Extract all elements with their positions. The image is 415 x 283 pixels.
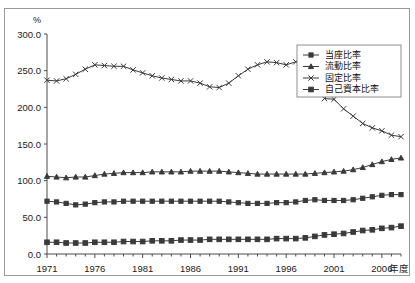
- data-point: [331, 169, 336, 174]
- data-point: [44, 174, 49, 179]
- data-point: [332, 232, 337, 237]
- data-point: [227, 200, 231, 204]
- data-point: [255, 237, 260, 242]
- data-point: [389, 193, 393, 197]
- data-point: [54, 240, 59, 245]
- data-point: [341, 168, 346, 173]
- data-point: [121, 170, 126, 175]
- data-point: [398, 155, 403, 160]
- y-axis-tick-label: 250.0: [17, 65, 41, 76]
- data-point: [303, 171, 308, 176]
- x-axis-tick-label: 2001: [323, 263, 344, 274]
- data-point: [360, 121, 365, 126]
- data-point: [217, 237, 222, 242]
- page-top-cutoff-strip: ──── ─ ── ───── ──────── ── ──── ───── ─…: [0, 0, 415, 7]
- data-point: [264, 171, 269, 176]
- data-point: [73, 72, 78, 77]
- data-point: [313, 198, 317, 202]
- data-point: [322, 170, 327, 175]
- data-point: [188, 238, 193, 243]
- figure-frame: %0.050.0100.0150.0200.0250.0300.01971197…: [4, 8, 410, 276]
- data-point: [83, 241, 88, 246]
- data-point: [275, 201, 279, 205]
- series-line: [47, 158, 401, 178]
- y-axis-tick-label: 0.0: [28, 249, 41, 260]
- data-point: [140, 70, 145, 75]
- data-point: [226, 169, 231, 174]
- legend-label: 自己資本比率: [325, 83, 379, 94]
- data-point: [73, 174, 78, 179]
- data-point: [246, 237, 251, 242]
- data-point: [45, 199, 49, 203]
- data-point: [360, 228, 365, 233]
- data-point: [293, 171, 298, 176]
- data-point: [178, 169, 183, 174]
- series-2: [44, 155, 403, 180]
- data-point: [141, 199, 145, 203]
- data-point: [380, 193, 384, 197]
- data-point: [54, 174, 59, 179]
- data-point: [131, 199, 135, 203]
- data-point: [284, 171, 289, 176]
- data-point: [399, 224, 404, 229]
- data-point: [197, 168, 202, 173]
- data-point: [389, 157, 394, 162]
- legend-label: 当座比率: [325, 49, 361, 60]
- y-axis-tick-label: 100.0: [17, 175, 41, 186]
- x-axis-tick-label: 1996: [276, 263, 297, 274]
- chart-legend: 当座比率流動比率固定比率自己資本比率: [297, 45, 401, 97]
- data-point: [112, 240, 117, 245]
- data-point: [102, 200, 106, 204]
- data-point: [150, 199, 154, 203]
- y-axis-tick-label: 50.0: [23, 212, 42, 223]
- data-point: [236, 73, 241, 78]
- data-point: [274, 236, 279, 241]
- data-point: [150, 169, 155, 174]
- data-point: [322, 198, 326, 202]
- x-axis-tick-label: 1991: [228, 263, 249, 274]
- data-point: [313, 234, 318, 239]
- data-point: [207, 168, 212, 173]
- data-point: [208, 199, 212, 203]
- data-point: [54, 200, 58, 204]
- data-point: [274, 171, 279, 176]
- data-point: [169, 169, 174, 174]
- data-point: [93, 201, 97, 205]
- data-point: [74, 203, 78, 207]
- data-point: [370, 228, 375, 233]
- data-point: [102, 240, 107, 245]
- data-point: [92, 173, 97, 178]
- data-point: [341, 106, 346, 111]
- data-point: [64, 175, 69, 180]
- data-point: [73, 241, 78, 246]
- data-point: [236, 170, 241, 175]
- y-axis-tick-label: 150.0: [17, 139, 41, 150]
- data-point: [160, 239, 165, 244]
- data-point: [111, 171, 116, 176]
- legend-label: 流動比率: [325, 60, 361, 71]
- data-point: [188, 168, 193, 173]
- data-point: [236, 201, 240, 205]
- data-point: [226, 80, 231, 85]
- data-point: [217, 168, 222, 173]
- data-point: [130, 67, 135, 72]
- data-point: [169, 199, 173, 203]
- data-point: [131, 170, 136, 175]
- data-point: [198, 238, 203, 243]
- data-point: [83, 174, 88, 179]
- series-3: [45, 193, 403, 207]
- data-point: [179, 199, 183, 203]
- data-point: [207, 237, 212, 242]
- legend-marker-filled-square-icon: [309, 87, 314, 92]
- data-point: [399, 193, 403, 197]
- x-axis-tick-label: 1971: [36, 263, 57, 274]
- data-point: [83, 67, 88, 72]
- x-axis-tick-label: 1986: [180, 263, 201, 274]
- data-point: [341, 198, 345, 202]
- data-point: [284, 236, 289, 241]
- data-point: [265, 201, 269, 205]
- data-point: [255, 171, 260, 176]
- data-point: [322, 233, 327, 238]
- data-point: [246, 201, 250, 205]
- data-point: [188, 199, 192, 203]
